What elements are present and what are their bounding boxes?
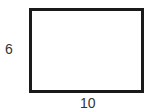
height-label: 6 [5, 42, 13, 56]
width-label: 10 [80, 96, 96, 110]
rectangle-shape [29, 8, 144, 93]
